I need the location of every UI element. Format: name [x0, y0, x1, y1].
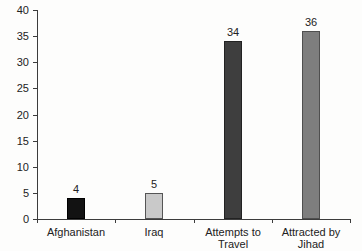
x-tick-mark: [37, 220, 38, 223]
y-tick-label: 25: [0, 82, 29, 94]
x-tick-mark: [272, 220, 273, 223]
x-tick-mark: [115, 220, 116, 223]
y-tick-mark: [33, 193, 37, 194]
category-label: Attracted by Jihad: [272, 226, 350, 250]
bar-value-label: 34: [213, 26, 253, 38]
x-tick-mark: [194, 220, 195, 223]
y-tick-mark: [33, 141, 37, 142]
y-tick-mark: [33, 115, 37, 116]
bar-attracted-by-jihad: [302, 31, 320, 219]
y-tick-label: 5: [0, 187, 29, 199]
y-tick-label: 40: [0, 4, 29, 16]
y-axis-line: [37, 10, 38, 219]
bar-attempts-to-travel: [224, 41, 242, 219]
bar-value-label: 5: [134, 178, 174, 190]
y-tick-label: 10: [0, 161, 29, 173]
bar-afghanistan: [67, 198, 85, 219]
y-tick-label: 20: [0, 109, 29, 121]
bar-value-label: 36: [291, 16, 331, 28]
bar-value-label: 4: [56, 183, 96, 195]
y-tick-mark: [33, 10, 37, 11]
y-tick-mark: [33, 88, 37, 89]
y-tick-label: 30: [0, 56, 29, 68]
category-label: Iraq: [115, 226, 193, 238]
category-label: Afghanistan: [37, 226, 115, 238]
y-tick-label: 15: [0, 135, 29, 147]
bar-chart-figure: 05101520253035404Afghanistan5Iraq34Attem…: [0, 0, 362, 251]
bar-iraq: [145, 193, 163, 219]
y-tick-mark: [33, 36, 37, 37]
y-tick-label: 35: [0, 30, 29, 42]
y-tick-mark: [33, 167, 37, 168]
y-tick-label: 0: [0, 213, 29, 225]
y-tick-mark: [33, 62, 37, 63]
x-tick-mark: [350, 220, 351, 223]
category-label: Attempts to Travel: [194, 226, 272, 250]
